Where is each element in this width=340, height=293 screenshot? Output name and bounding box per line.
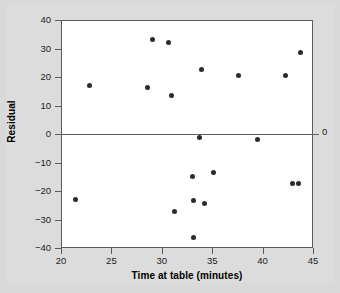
x-axis-tick — [162, 248, 163, 254]
x-axis-tick — [263, 248, 264, 254]
x-axis-title: Time at table (minutes) — [61, 270, 313, 281]
data-point — [191, 198, 196, 203]
x-axis-tick — [212, 248, 213, 254]
y-axis-tick-label: 30 — [21, 44, 51, 54]
data-point — [191, 235, 196, 240]
data-point — [166, 40, 171, 45]
data-point — [87, 83, 92, 88]
x-axis-tick-label: 25 — [96, 256, 126, 266]
data-point — [73, 197, 78, 202]
data-point — [190, 174, 195, 179]
x-axis-tick-label: 40 — [248, 256, 278, 266]
zero-reference-line-label: 0 — [322, 127, 327, 137]
x-axis-tick-label: 30 — [147, 256, 177, 266]
y-axis-tick-label: 20 — [21, 72, 51, 82]
data-point — [211, 170, 216, 175]
x-axis-tick — [61, 248, 62, 254]
y-axis-tick-label: 0 — [21, 129, 51, 139]
data-point — [283, 73, 288, 78]
x-axis-tick-label: 20 — [46, 256, 76, 266]
x-axis-tick — [313, 248, 314, 254]
y-axis-tick-label: −30 — [21, 215, 51, 225]
data-point — [202, 201, 207, 206]
y-axis-tick-label: −10 — [21, 158, 51, 168]
y-axis-title: Residual — [6, 87, 17, 157]
x-axis-tick-label: 35 — [197, 256, 227, 266]
y-axis-tick-label: −40 — [21, 243, 51, 253]
data-point — [236, 73, 241, 78]
data-point — [150, 37, 155, 42]
data-point — [296, 181, 301, 186]
y-axis-tick-label: 10 — [21, 101, 51, 111]
x-axis-tick-label: 45 — [298, 256, 328, 266]
data-point — [199, 67, 204, 72]
y-axis-tick-label: 40 — [21, 15, 51, 25]
data-point — [172, 209, 177, 214]
data-point — [197, 135, 202, 140]
data-point — [145, 85, 150, 90]
zero-reference-line — [61, 134, 319, 135]
data-point — [169, 93, 174, 98]
data-point — [290, 181, 295, 186]
x-axis-tick — [111, 248, 112, 254]
data-point — [255, 137, 260, 142]
y-axis-tick-label: −20 — [21, 186, 51, 196]
residual-scatter-plot-figure: Residual 403020100−10−20−30−40 0 2025303… — [0, 0, 340, 293]
data-point — [298, 50, 303, 55]
